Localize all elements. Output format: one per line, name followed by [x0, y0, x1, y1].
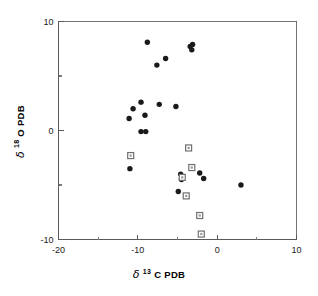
data-point-open-square: [186, 145, 192, 151]
x-axis-superscript: 13: [143, 268, 151, 275]
data-point-open-square: [183, 193, 189, 199]
data-point-filled-circle: [126, 116, 131, 121]
data-point-filled-circle: [143, 129, 148, 134]
data-point-filled-circle: [142, 113, 147, 118]
x-axis-delta-symbol: δ: [133, 268, 140, 281]
data-points: [126, 40, 243, 238]
data-point-open-square: [189, 165, 195, 171]
data-point-open-square: [197, 213, 203, 219]
data-point-open-square: [198, 231, 204, 237]
x-axis-title: δ13C PDB: [0, 268, 318, 281]
data-point-filled-circle: [190, 42, 195, 47]
axis-ticks: [59, 22, 297, 240]
data-point-filled-circle: [138, 129, 143, 134]
data-point-filled-circle: [201, 176, 206, 181]
data-point-filled-circle: [173, 104, 178, 109]
plot-canvas: -20-10010-10010: [0, 0, 318, 296]
data-point-filled-circle: [197, 170, 202, 175]
x-tick-label: -10: [131, 245, 144, 255]
data-point-filled-circle: [157, 102, 162, 107]
y-axis-title: δ18O PDB: [13, 67, 26, 197]
data-point-filled-circle: [138, 99, 143, 104]
axis-frame: [58, 21, 297, 240]
data-point-open-square: [179, 174, 185, 180]
y-axis-delta-symbol: δ: [14, 151, 27, 158]
x-tick-label: -20: [52, 245, 65, 255]
y-axis-title-text: O PDB: [15, 105, 26, 137]
y-tick-label: 10: [43, 17, 53, 27]
data-point-open-square: [128, 153, 134, 159]
data-point-filled-circle: [189, 47, 194, 52]
data-point-filled-circle: [163, 56, 168, 61]
y-axis-superscript: 18: [13, 140, 20, 148]
data-point-filled-circle: [145, 40, 150, 45]
data-point-filled-circle: [176, 189, 181, 194]
x-tick-label: 10: [291, 245, 301, 255]
axis-tick-labels: -20-10010-10010: [40, 17, 301, 255]
scatter-plot-figure: -20-10010-10010 δ13C PDB δ18O PDB: [0, 0, 318, 296]
y-tick-label: 0: [48, 126, 53, 136]
x-tick-label: 0: [215, 245, 220, 255]
data-point-filled-circle: [127, 166, 132, 171]
data-point-filled-circle: [154, 62, 159, 67]
data-point-filled-circle: [130, 106, 135, 111]
x-axis-title-text: C PDB: [154, 269, 185, 280]
y-tick-label: -10: [40, 235, 53, 245]
data-point-filled-circle: [238, 182, 243, 187]
